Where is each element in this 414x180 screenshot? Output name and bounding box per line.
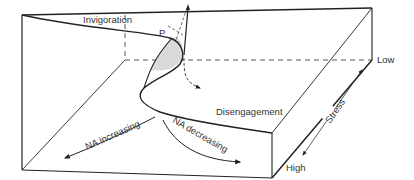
high-label: High [286,162,306,173]
cusp-catastrophe-diagram: Invigoration P Disengagement Low High St… [0,0,414,180]
disengagement-arrow [184,58,200,88]
point-p-label: P [159,27,165,38]
back-top-edge [22,8,372,15]
floor-diagonal [22,60,125,170]
trajectory-arrowhead [186,4,190,10]
low-label: Low [377,54,395,65]
disengagement-label: Disengagement [216,106,283,117]
bottom-edge [22,170,272,178]
na-increasing-label: NA increasing [83,118,141,152]
na-decreasing-label: NA decreasing [171,114,230,154]
invigoration-label: Invigoration [83,14,132,25]
